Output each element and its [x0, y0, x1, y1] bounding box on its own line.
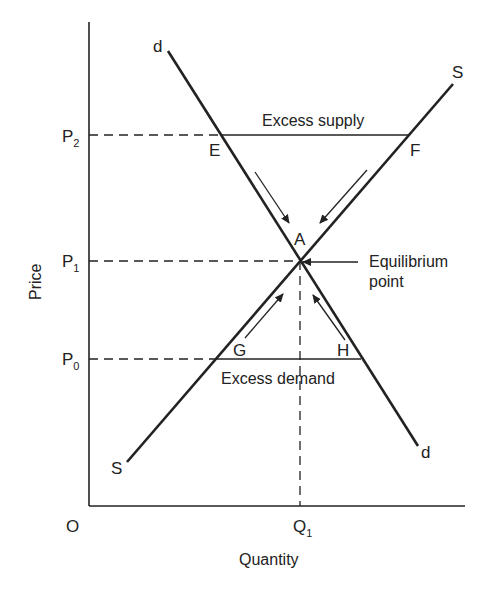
q1-label: Q1 [293, 517, 312, 539]
p2-label: P2 [62, 127, 79, 149]
excess-demand-label: Excess demand [221, 370, 335, 387]
p1-label: P1 [62, 252, 79, 274]
point-h-label: H [337, 341, 349, 360]
excess-supply-label: Excess supply [262, 112, 364, 129]
arrow-f-to-a [320, 170, 367, 223]
supply-label-top: S [452, 63, 463, 82]
arrow-h-to-a [313, 295, 345, 340]
equilibrium-label-line1: Equilibrium [369, 253, 448, 270]
y-axis-label: Price [27, 263, 44, 300]
arrow-g-to-a [245, 294, 283, 338]
equilibrium-label-line2: point [369, 273, 404, 290]
point-e-label: E [209, 141, 220, 160]
point-f-label: F [410, 141, 420, 160]
supply-label-bottom: S [111, 459, 122, 478]
origin-label: O [66, 517, 79, 536]
p0-label: P0 [62, 350, 79, 372]
supply-demand-diagram: P2 P1 P0 Price O Q1 Quantity d d S S E F… [0, 0, 499, 592]
supply-curve [127, 84, 453, 462]
point-g-label: G [233, 341, 246, 360]
demand-label-bottom: d [421, 443, 430, 462]
point-a-label: A [294, 230, 306, 249]
x-axis-label: Quantity [239, 551, 299, 568]
demand-label-top: d [153, 37, 162, 56]
